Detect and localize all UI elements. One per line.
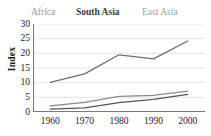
y-axis-tick-labels: 302520151050	[8, 20, 30, 112]
y-tick-label: 15	[8, 64, 30, 73]
x-tick-label: 1990	[144, 116, 163, 127]
data-series	[50, 41, 188, 109]
legend-item-east-asia: East Asia	[142, 6, 178, 18]
plot-svg	[33, 24, 205, 112]
series-line-east-asia	[50, 41, 188, 82]
y-tick-label: 25	[8, 34, 30, 43]
legend-item-africa: Africa	[31, 6, 55, 18]
x-tick-label: 1970	[75, 116, 94, 127]
y-tick-label: 5	[8, 93, 30, 102]
gridlines	[33, 24, 205, 112]
series-line-south-asia	[50, 91, 188, 106]
y-tick-label: 30	[8, 20, 30, 29]
x-axis-tick-labels: 19601970198019902000	[0, 116, 211, 130]
y-tick-label: 10	[8, 78, 30, 87]
x-tick-label: 2000	[178, 116, 197, 127]
legend-item-south-asia: South Asia	[76, 6, 120, 18]
chart-legend: Africa South Asia East Asia	[0, 6, 211, 20]
y-tick-label: 20	[8, 49, 30, 58]
line-chart: Africa South Asia East Asia Index 302520…	[0, 0, 211, 136]
x-tick-label: 1960	[41, 116, 60, 127]
x-tick-label: 1980	[110, 116, 129, 127]
plot-area	[33, 24, 205, 112]
